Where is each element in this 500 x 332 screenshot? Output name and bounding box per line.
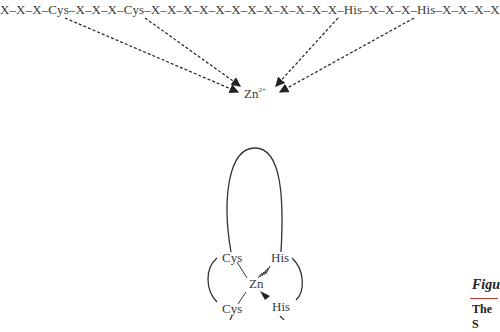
- zinc-charge: 2+: [258, 86, 265, 94]
- figure-label: Figu: [472, 277, 500, 293]
- zn-center-label: Zn: [249, 276, 263, 292]
- his-top-label: His: [271, 250, 289, 266]
- left-arc: [208, 258, 217, 302]
- caption-rule: [470, 298, 498, 299]
- cys-bottom-label: Cys: [222, 301, 242, 317]
- arrow-cys1: [65, 18, 238, 92]
- finger-loop: [227, 148, 282, 252]
- arrow-cys2: [145, 18, 240, 86]
- arrow-his1: [276, 18, 338, 86]
- figure-subtitle: The S: [472, 302, 498, 332]
- right-arc: [292, 258, 302, 300]
- zinc-ion-label: Zn2+: [244, 86, 266, 102]
- zinc-symbol: Zn: [244, 86, 258, 101]
- arrow-his2: [280, 18, 414, 92]
- his-bottom-label: His: [272, 299, 290, 315]
- cys-top-label: Cys: [222, 250, 242, 266]
